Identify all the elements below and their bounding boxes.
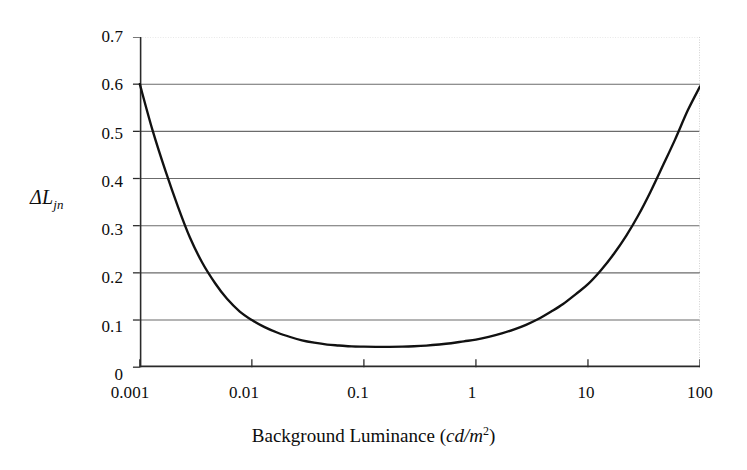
x-axis-title-unit: cd/m [446,425,483,446]
x-tick-label: 0.1 [347,384,369,402]
y-tick-label: 0 [61,366,123,383]
gridlines [140,37,700,367]
x-tick-label: 0.001 [111,384,150,402]
y-tick-label: 0.5 [61,125,123,142]
plot-canvas [130,37,700,375]
x-axis-title-close-paren: ) [489,425,495,446]
y-tick-label: 0.2 [61,269,123,286]
y-tick-label: 0.1 [61,318,123,335]
chart-figure: ΔLjn 00.10.20.30.40.50.60.7 0.0010.010.1… [0,0,747,470]
x-tick-label: 0.01 [229,384,259,402]
y-axis-tick-marks [133,37,140,367]
data-series-line [140,84,700,347]
x-axis-title-main: Background Luminance [252,425,435,446]
y-tick-label: 0.3 [61,221,123,238]
y-axis-title-delta: Δ [30,186,42,208]
y-tick-label: 0.6 [61,76,123,93]
y-tick-label: 0.7 [61,28,123,45]
x-axis-title: Background Luminance (cd/m2) [0,420,747,447]
x-tick-label: 1 [468,384,477,402]
x-tick-label: 10 [577,384,594,402]
plot-area [130,37,700,375]
y-axis-title-symbol: L [42,186,53,208]
x-axis-tick-labels: 0.0010.010.1110100 [0,384,747,410]
x-tick-label: 100 [687,384,713,402]
y-tick-label: 0.4 [61,173,123,190]
